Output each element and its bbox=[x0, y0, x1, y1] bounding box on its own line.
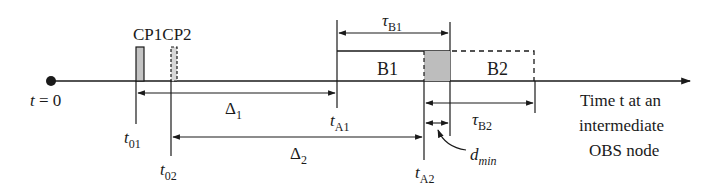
tA1-label: tA1 bbox=[330, 111, 349, 134]
cp1-packet bbox=[136, 47, 144, 81]
t02-label: t02 bbox=[160, 160, 177, 183]
cp2-packet bbox=[171, 47, 177, 81]
overlap-shade bbox=[424, 51, 450, 81]
axis-caption-line1: Time t at an bbox=[580, 91, 662, 110]
cp-header-label: CP1CP2 bbox=[133, 25, 192, 44]
tA2-label: tA2 bbox=[415, 163, 434, 186]
obs-timing-diagram: CP1CP2 t = 0 t01 t02 Δ1 Δ2 tA1 tA2 τB1 τ… bbox=[0, 0, 726, 190]
origin-label: t = 0 bbox=[30, 91, 61, 110]
axis-caption-line2: intermediate bbox=[579, 116, 664, 135]
dmin-pointer bbox=[438, 130, 466, 150]
delta1-label: Δ1 bbox=[225, 99, 242, 122]
t01-label: t01 bbox=[124, 128, 141, 151]
b1-label: B1 bbox=[377, 59, 398, 79]
delta2-label: Δ2 bbox=[290, 144, 307, 167]
axis-caption-line3: OBS node bbox=[589, 141, 659, 160]
tau-b1-label: τB1 bbox=[382, 11, 402, 34]
b2-label: B2 bbox=[487, 59, 508, 79]
dmin-label: dmin bbox=[470, 145, 497, 168]
tau-b2-label: τB2 bbox=[472, 110, 492, 133]
